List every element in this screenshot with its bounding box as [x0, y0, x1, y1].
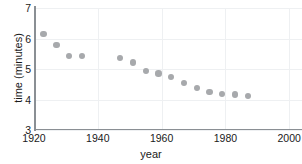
- data-point: [155, 70, 161, 76]
- gridline-x-1940: [98, 8, 99, 130]
- data-point: [168, 74, 174, 80]
- y-axis-line: [34, 6, 36, 131]
- data-point: [40, 31, 46, 37]
- x-tick-label-1960: 1960: [142, 133, 182, 144]
- gridline-x-1980: [225, 8, 226, 130]
- x-axis-line: [34, 129, 302, 130]
- data-point: [79, 53, 85, 59]
- gridline-y-4: [34, 100, 302, 101]
- data-point: [245, 93, 251, 99]
- data-point: [130, 59, 136, 65]
- x-axis-title: year: [0, 148, 302, 160]
- gridline-x-1960: [162, 8, 163, 130]
- data-point: [194, 85, 200, 91]
- data-point: [232, 91, 238, 97]
- data-point: [117, 55, 123, 61]
- x-tick-label-1940: 1940: [78, 133, 118, 144]
- x-tick-label-1980: 1980: [205, 133, 245, 144]
- data-point: [66, 53, 72, 59]
- gridline-x-2000: [289, 8, 290, 130]
- gridline-y-6: [34, 39, 302, 40]
- data-point: [143, 68, 149, 74]
- data-point: [53, 42, 59, 48]
- y-axis-title: time (minutes): [12, 8, 24, 128]
- data-point: [206, 89, 212, 95]
- gridline-y-5: [34, 69, 302, 70]
- chart-top-margin: [0, 0, 302, 4]
- x-tick-label-1920: 1920: [14, 133, 54, 144]
- gridline-y-7: [34, 8, 302, 9]
- x-tick-label-2000: 2000: [269, 133, 302, 144]
- scatter-chart: 34567 19201940196019802000 year time (mi…: [0, 0, 302, 164]
- data-point: [181, 80, 187, 86]
- plot-area: [34, 8, 302, 130]
